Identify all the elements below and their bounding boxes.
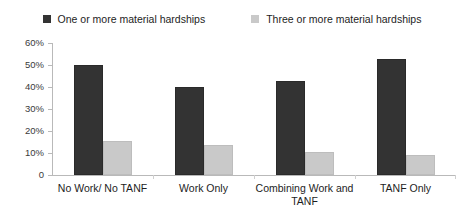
- bar-group: [74, 43, 132, 175]
- y-tick-mark: [48, 153, 52, 154]
- y-tick-mark: [48, 131, 52, 132]
- y-tick-mark: [48, 43, 52, 44]
- bar[interactable]: [175, 87, 204, 175]
- y-tick-mark: [48, 87, 52, 88]
- bar[interactable]: [103, 141, 132, 175]
- plot-area: 010%20%30%40%50%60%: [52, 43, 456, 175]
- legend-label-three-or-more: Three or more material hardships: [266, 14, 421, 25]
- x-tick-mark: [153, 175, 154, 179]
- y-tick-label: 60%: [25, 38, 44, 48]
- bar[interactable]: [74, 65, 103, 175]
- x-axis-category-label: Combining Work andTANF: [254, 182, 355, 208]
- category-label-line: No Work/ No TANF: [52, 182, 153, 195]
- legend-swatch-dark: [43, 15, 51, 23]
- y-tick-label: 40%: [25, 82, 44, 92]
- bar[interactable]: [305, 152, 334, 175]
- x-axis-category-label: No Work/ No TANF: [52, 182, 153, 195]
- category-label-line: TANF Only: [355, 182, 456, 195]
- y-tick-label: 50%: [25, 60, 44, 70]
- chart-legend: One or more material hardships Three or …: [0, 14, 464, 25]
- y-tick-mark: [48, 109, 52, 110]
- legend-item-one-or-more: One or more material hardships: [43, 14, 206, 25]
- x-axis-category-label: Work Only: [153, 182, 254, 195]
- bar[interactable]: [276, 81, 305, 175]
- bar[interactable]: [204, 145, 233, 175]
- x-tick-mark: [455, 175, 456, 179]
- y-tick-mark: [48, 175, 52, 176]
- y-tick-label: 10%: [25, 148, 44, 158]
- y-tick-label: 0: [39, 170, 44, 180]
- x-tick-mark: [355, 175, 356, 179]
- category-label-line: Work Only: [153, 182, 254, 195]
- x-axis-category-label: TANF Only: [355, 182, 456, 195]
- y-tick-label: 20%: [25, 126, 44, 136]
- y-tick-label: 30%: [25, 104, 44, 114]
- y-tick-mark: [48, 65, 52, 66]
- bar-group: [276, 43, 334, 175]
- x-tick-mark: [254, 175, 255, 179]
- bar-chart-figure: One or more material hardships Three or …: [0, 0, 464, 220]
- category-label-line: Combining Work and: [254, 182, 355, 195]
- y-axis-line: [52, 43, 53, 175]
- bar[interactable]: [377, 59, 406, 175]
- legend-swatch-light: [251, 15, 259, 23]
- category-label-line: TANF: [254, 195, 355, 208]
- legend-label-one-or-more: One or more material hardships: [58, 14, 206, 25]
- bar-group: [377, 43, 435, 175]
- bar-group: [175, 43, 233, 175]
- legend-item-three-or-more: Three or more material hardships: [251, 14, 421, 25]
- bar[interactable]: [406, 155, 435, 175]
